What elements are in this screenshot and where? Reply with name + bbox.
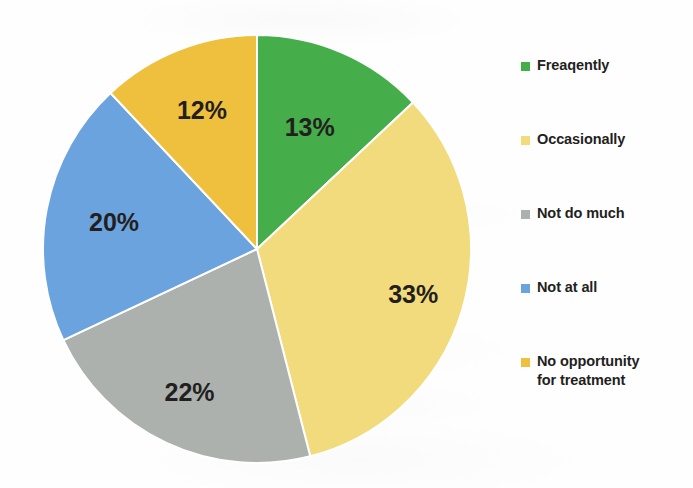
legend-label-not-do-much: Not do much (537, 204, 625, 223)
legend-swatch-icon-freaqently (521, 62, 530, 71)
legend-item-not-do-much[interactable]: Not do much (521, 204, 689, 278)
pie-value-label-occasionally: 33% (388, 280, 438, 308)
chart-legend: Freaqently Occasionally Not do much Not … (521, 56, 689, 390)
pie-chart-svg: 13%33%22%20%12% (42, 34, 472, 464)
pie-chart: 13%33%22%20%12% (42, 34, 472, 464)
pie-value-label-not-at-all: 20% (89, 208, 139, 236)
legend-swatch-icon-not-do-much (521, 210, 530, 219)
legend-label-not-at-all: Not at all (537, 278, 597, 297)
legend-item-freaqently[interactable]: Freaqently (521, 56, 689, 130)
chart-page: 13%33%22%20%12% Freaqently Occasionally … (0, 0, 693, 488)
legend-item-not-at-all[interactable]: Not at all (521, 278, 689, 352)
pie-value-label-no-opportunity-for-treatment: 12% (177, 96, 227, 124)
pie-value-label-not-do-much: 22% (165, 378, 215, 406)
legend-swatch-icon-not-at-all (521, 284, 530, 293)
legend-label-no-opportunity-for-treatment: No opportunity for treatment (537, 352, 640, 390)
pie-value-label-freaqently: 13% (285, 113, 335, 141)
legend-item-occasionally[interactable]: Occasionally (521, 130, 689, 204)
legend-label-freaqently: Freaqently (537, 56, 609, 75)
legend-swatch-icon-occasionally (521, 136, 530, 145)
legend-swatch-icon-no-opportunity-for-treatment (521, 358, 530, 367)
legend-label-occasionally: Occasionally (537, 130, 625, 149)
legend-item-no-opportunity-for-treatment[interactable]: No opportunity for treatment (521, 352, 689, 390)
pie-slice-group (43, 35, 471, 463)
